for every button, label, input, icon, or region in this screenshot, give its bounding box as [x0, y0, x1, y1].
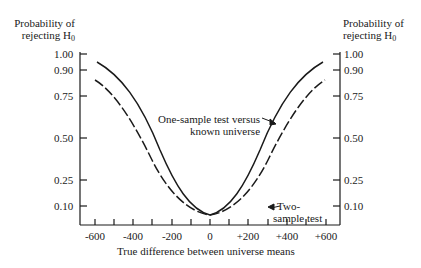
two-sample-annotation: Two- sample test: [277, 200, 322, 224]
right-ytick-label: 0.75: [344, 90, 363, 102]
xtick-label: +200: [237, 230, 260, 242]
left-ytick-label: 0.25: [54, 174, 73, 186]
left-axis-title-line2: rejecting H0: [10, 29, 75, 45]
two-sample-curve: [95, 80, 325, 215]
left-ytick-label: 0.90: [54, 64, 73, 76]
right-ytick-label: 0.50: [344, 132, 363, 144]
left-ytick-label: 1.00: [54, 48, 73, 60]
xtick-label: +600: [315, 230, 338, 242]
xtick-label: +400: [276, 230, 299, 242]
xtick-label: -200: [162, 230, 182, 242]
xtick-label: 0: [207, 230, 213, 242]
one-sample-annotation-line2: known universe: [158, 125, 260, 137]
right-axis-title-line2: rejecting H0: [343, 29, 404, 45]
left-ytick-label: 0.50: [54, 132, 73, 144]
right-ytick-label: 0.25: [344, 174, 363, 186]
two-sample-annotation-line2: sample test: [273, 212, 322, 224]
right-axis-title-line1: Probability of: [343, 17, 404, 29]
two-sample-annotation-line1: Two-: [277, 200, 322, 212]
one-sample-curve: [97, 62, 323, 215]
right-ytick-label: 0.90: [344, 64, 363, 76]
xtick-label: -600: [85, 230, 105, 242]
right-ytick-label: 0.10: [344, 200, 363, 212]
one-sample-annotation-line1: One-sample test versus: [158, 113, 260, 125]
left-ytick-label: 0.75: [54, 90, 73, 102]
x-axis-title: True difference between universe means: [117, 245, 295, 257]
right-axis-title: Probability of rejecting H0: [343, 17, 404, 45]
left-axis-title-line1: Probability of: [10, 17, 75, 29]
left-axis-title: Probability of rejecting H0: [10, 17, 75, 45]
one-sample-annotation: One-sample test versus known universe: [158, 113, 260, 137]
xtick-label: -400: [123, 230, 143, 242]
left-ytick-label: 0.10: [54, 200, 73, 212]
right-ytick-label: 1.00: [344, 48, 363, 60]
